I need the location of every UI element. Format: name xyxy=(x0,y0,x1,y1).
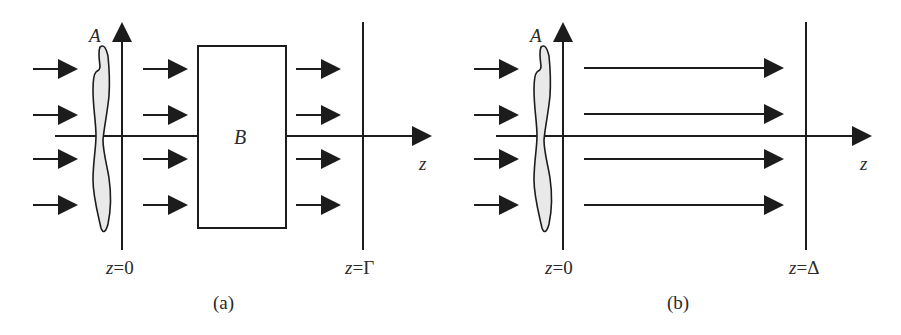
figure: A B z z=0 z=Γ (a) xyxy=(0,0,901,335)
element-label: B xyxy=(234,126,246,148)
panel-caption: (b) xyxy=(667,292,689,314)
object-label: A xyxy=(528,25,542,46)
plane-label: z=Γ xyxy=(344,257,374,278)
axis-label: z xyxy=(418,153,427,174)
panel-a: A B z z=0 z=Γ (a) xyxy=(33,22,432,314)
axis-label: z xyxy=(859,153,868,174)
panel-caption: (a) xyxy=(213,292,234,314)
object-a xyxy=(93,46,110,231)
panel-b: A z z=0 z=Δ (b) xyxy=(474,22,872,314)
object-label: A xyxy=(87,25,101,46)
origin-label: z=0 xyxy=(105,257,134,278)
object-a xyxy=(534,46,551,231)
plane-label: z=Δ xyxy=(788,257,819,278)
origin-label: z=0 xyxy=(544,257,573,278)
z-axis xyxy=(496,126,872,146)
